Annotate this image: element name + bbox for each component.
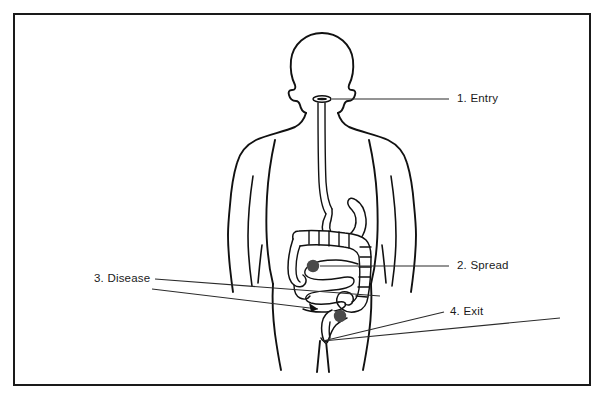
callout-label-disease[interactable]: 3. Disease xyxy=(94,272,150,284)
left-arm-inner-line-2 xyxy=(258,245,262,283)
rectum-inner xyxy=(329,322,330,338)
callout-label-entry[interactable]: 1. Entry xyxy=(457,92,498,104)
left-hip-leg xyxy=(273,284,281,370)
leader-line-disease-lower xyxy=(152,289,318,309)
esophagus-right-wall xyxy=(325,103,332,209)
right-inner-leg xyxy=(326,341,329,372)
mouth-inner xyxy=(317,98,327,100)
anatomy-diagram xyxy=(0,0,603,398)
right-arm-inner-line xyxy=(391,176,396,286)
left-torso-side xyxy=(266,140,275,284)
callout-label-spread[interactable]: 2. Spread xyxy=(457,259,509,271)
leader-line-exit-lower xyxy=(323,318,560,341)
diagram-page: 1. Entry 2. Spread 3. Disease 4. Exit xyxy=(0,0,603,398)
diagram-frame xyxy=(14,14,590,385)
lesion-spread-dot xyxy=(307,260,319,272)
callout-label-exit[interactable]: 4. Exit xyxy=(450,305,483,317)
left-inner-leg xyxy=(317,341,320,372)
lesion-exit-dot xyxy=(334,310,346,322)
digestive-tract-group xyxy=(288,96,371,343)
left-arm-inner-line xyxy=(248,176,253,286)
right-arm-inner-line-2 xyxy=(382,245,386,283)
